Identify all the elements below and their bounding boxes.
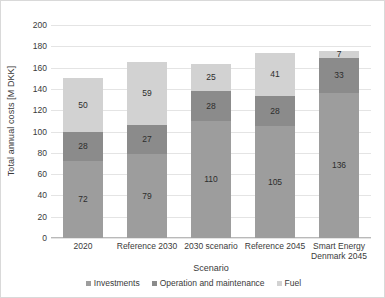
y-axis-tick-label: 100 <box>5 127 47 137</box>
bar-segment[interactable]: 27 <box>127 125 167 154</box>
bar-value-label: 136 <box>332 161 346 170</box>
legend-item[interactable]: Fuel <box>277 278 302 288</box>
legend-item[interactable]: Investments <box>86 278 140 288</box>
legend-swatch-icon <box>152 281 157 286</box>
bar-segment[interactable]: 28 <box>191 91 231 121</box>
bar-segment[interactable]: 50 <box>63 78 103 131</box>
bar-value-label: 28 <box>270 107 279 116</box>
bar-stack[interactable]: 733136 <box>319 51 359 238</box>
x-axis-title: Scenario <box>51 263 371 273</box>
bar-segment[interactable]: 33 <box>319 58 359 93</box>
bar-value-label: 33 <box>334 71 343 80</box>
bar-stack[interactable]: 2528110 <box>191 64 231 238</box>
legend-label: Fuel <box>285 278 302 288</box>
y-axis-tick-label: 60 <box>5 169 47 179</box>
stacked-bar-chart: Total annual costs [M DKK] 2001801601401… <box>0 0 385 298</box>
bar-segment[interactable]: 25 <box>191 64 231 91</box>
bar-segment[interactable]: 136 <box>319 93 359 238</box>
bar-value-label: 79 <box>142 192 151 201</box>
legend-label: Operation and maintenance <box>160 278 265 288</box>
bar-segment[interactable]: 105 <box>255 126 295 238</box>
x-axis-tick-label: 2030 scenario <box>179 241 243 261</box>
x-axis-tick-label: Smart Energy Denmark 2045 <box>307 241 371 261</box>
bar-segment[interactable]: 110 <box>191 121 231 238</box>
y-axis-tick-label: 200 <box>5 20 47 30</box>
legend-label: Investments <box>94 278 140 288</box>
gridline <box>51 238 371 239</box>
bar-segment[interactable]: 72 <box>63 161 103 238</box>
y-axis-tick-label: 140 <box>5 84 47 94</box>
bar-value-label: 41 <box>270 70 279 79</box>
legend-swatch-icon <box>277 281 282 286</box>
bar-segment[interactable]: 79 <box>127 154 167 238</box>
bars-layer: 50287259277925281104128105733136 <box>51 25 371 238</box>
bar-value-label: 28 <box>206 102 215 111</box>
bar-group: 733136 <box>307 25 371 238</box>
bar-segment[interactable]: 28 <box>255 96 295 126</box>
y-axis-tick-label: 80 <box>5 148 47 158</box>
bar-value-label: 50 <box>78 101 87 110</box>
bar-segment[interactable]: 7 <box>319 51 359 58</box>
bar-value-label: 59 <box>142 89 151 98</box>
y-axis-tick-label: 180 <box>5 41 47 51</box>
legend-item[interactable]: Operation and maintenance <box>152 278 265 288</box>
y-axis-tick-label: 0 <box>5 233 47 243</box>
x-axis-tick-label: 2020 <box>51 241 115 261</box>
bar-value-label: 25 <box>206 73 215 82</box>
bar-value-label: 105 <box>268 178 282 187</box>
legend-swatch-icon <box>86 281 91 286</box>
x-axis-tick-label: Reference 2045 <box>243 241 307 261</box>
y-axis-tick-label: 20 <box>5 212 47 222</box>
x-axis-tick-labels: 2020Reference 20302030 scenarioReference… <box>51 241 371 261</box>
bar-stack[interactable]: 4128105 <box>255 53 295 238</box>
bar-group: 592779 <box>115 25 179 238</box>
bar-segment[interactable]: 41 <box>255 53 295 97</box>
y-axis-tick-label: 120 <box>5 105 47 115</box>
y-axis-tick-labels: 200180160140120100806040200 <box>1 25 47 238</box>
bar-value-label: 72 <box>78 195 87 204</box>
y-axis-tick-label: 160 <box>5 63 47 73</box>
bar-segment[interactable]: 59 <box>127 62 167 125</box>
bar-value-label: 28 <box>78 142 87 151</box>
x-axis-tick-label: Reference 2030 <box>115 241 179 261</box>
bar-stack[interactable]: 592779 <box>127 62 167 238</box>
bar-group: 4128105 <box>243 25 307 238</box>
bar-group: 502872 <box>51 25 115 238</box>
bar-value-label: 110 <box>204 175 218 184</box>
bar-group: 2528110 <box>179 25 243 238</box>
bar-segment[interactable]: 28 <box>63 132 103 162</box>
bar-value-label: 27 <box>142 135 151 144</box>
chart-legend: InvestmentsOperation and maintenanceFuel <box>1 278 385 288</box>
bar-stack[interactable]: 502872 <box>63 78 103 238</box>
y-axis-tick-label: 40 <box>5 190 47 200</box>
